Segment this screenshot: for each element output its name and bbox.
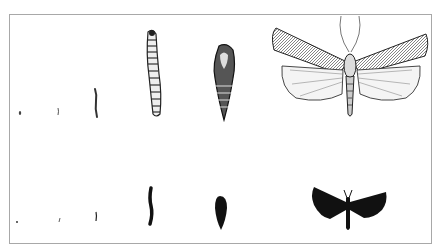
adult-moth-drawing bbox=[272, 16, 427, 116]
larva-early-silhouette bbox=[59, 218, 60, 222]
larva-mid-silhouette bbox=[96, 212, 97, 221]
larva-mid-drawing bbox=[95, 89, 97, 117]
life-cycle-illustration bbox=[0, 0, 438, 247]
adult-moth-silhouette bbox=[312, 187, 387, 230]
egg-silhouette bbox=[16, 221, 18, 223]
pupa-drawing bbox=[214, 45, 234, 120]
egg-drawing bbox=[19, 111, 21, 115]
pupa-silhouette bbox=[215, 196, 227, 230]
larva-mature-silhouette bbox=[150, 188, 152, 224]
larva-mature-drawing bbox=[147, 30, 161, 116]
larva-early-drawing bbox=[58, 108, 59, 115]
